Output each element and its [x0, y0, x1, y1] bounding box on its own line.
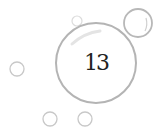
bottom-right-bubble: [78, 112, 92, 126]
bottom-left-bubble: [43, 112, 57, 126]
top-right-bubble: [124, 9, 152, 37]
top-right-bubble-highlight: [145, 18, 147, 31]
left-bubble: [10, 62, 24, 76]
top-small-bubble: [72, 16, 82, 26]
bubble-badge-graphic: 13: [0, 0, 162, 139]
badge-number: 13: [76, 48, 116, 78]
